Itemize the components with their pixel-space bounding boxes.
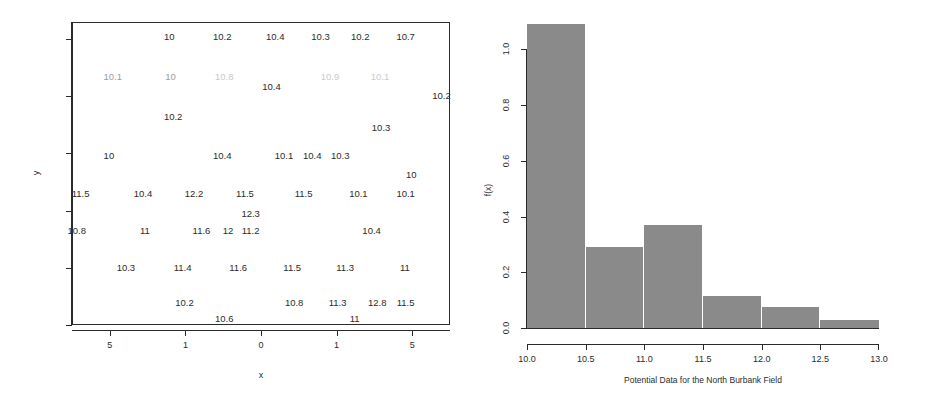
data-value-label: 10.9 <box>321 72 340 82</box>
scatter-x-axis: 51015 <box>72 330 450 338</box>
y-axis-tick <box>521 105 527 106</box>
data-value-label: 10.1 <box>396 189 415 199</box>
data-value-label: 10.4 <box>362 226 381 236</box>
scatter-plot-area: 1010.210.410.310.210.710.11010.810.410.9… <box>72 22 450 325</box>
x-axis-tick <box>586 344 587 350</box>
x-axis-tick-label: 11.0 <box>636 354 653 364</box>
data-value-label: 10 <box>406 170 417 180</box>
x-axis-tick <box>261 330 262 336</box>
data-value-label: 10.2 <box>213 32 232 42</box>
x-axis-tick <box>185 330 186 336</box>
histogram-panel: 10.010.511.011.512.012.513.0 Potential D… <box>470 0 932 405</box>
data-value-label: 10.8 <box>215 72 234 82</box>
data-value-label: 10 <box>164 32 175 42</box>
data-value-label: 10.2 <box>351 32 370 42</box>
data-value-label: 12 <box>223 226 234 236</box>
data-value-label: 10 <box>165 72 176 82</box>
y-axis-tick <box>521 328 527 329</box>
x-axis-tick <box>644 344 645 350</box>
histogram-plot-area <box>527 16 879 328</box>
data-value-label: 10.4 <box>213 152 232 162</box>
x-axis-tick-label: 10.0 <box>518 354 536 364</box>
histogram-x-axis-label: Potential Data for the North Burbank Fie… <box>624 375 782 385</box>
x-axis-tick-label: 12.0 <box>753 354 771 364</box>
x-axis-tick <box>110 330 111 336</box>
data-value-label: 10.3 <box>311 32 330 42</box>
x-axis-tick-label: 10.5 <box>577 354 595 364</box>
x-axis-tick <box>527 344 528 350</box>
data-value-label: 10.3 <box>372 123 391 133</box>
x-axis-tick-label: 12.5 <box>812 354 830 364</box>
y-axis-tick <box>66 268 72 269</box>
y-axis-tick <box>66 39 72 40</box>
data-value-label: 11.3 <box>329 299 347 309</box>
data-value-label: 10.3 <box>117 264 136 274</box>
scatter-panel: 1010.210.410.310.210.710.11010.810.410.9… <box>0 0 470 405</box>
data-value-label: 11.5 <box>236 189 254 199</box>
figure-canvas: 1010.210.410.310.210.710.11010.810.410.9… <box>0 0 932 405</box>
data-value-label: 10 <box>104 152 115 162</box>
histogram-bar <box>527 24 586 328</box>
data-value-label: 10.6 <box>215 315 234 325</box>
data-value-label: 11.4 <box>174 264 192 274</box>
x-axis-tick-label: 13.0 <box>870 354 888 364</box>
y-axis-tick-label: 0.6 <box>501 155 511 168</box>
data-value-label: 10.4 <box>303 152 322 162</box>
x-axis-tick-label: 1 <box>183 340 188 350</box>
x-axis-tick <box>337 330 338 336</box>
data-value-label: 10.3 <box>331 152 350 162</box>
y-axis-tick <box>521 161 527 162</box>
data-value-label: 12.8 <box>368 299 387 309</box>
histogram-y-axis-label: f(x) <box>483 184 493 196</box>
scatter-y-axis-label: y <box>31 171 41 176</box>
x-axis-tick <box>762 344 763 350</box>
data-value-label: 10.4 <box>262 82 281 92</box>
histogram-x-axis: 10.010.511.011.512.012.513.0 <box>527 344 879 352</box>
data-value-label: 11.5 <box>295 189 313 199</box>
x-axis-tick-label: 11.5 <box>695 354 712 364</box>
x-axis-tick <box>820 344 821 350</box>
data-value-label: 10.4 <box>266 32 285 42</box>
data-value-label: 11.3 <box>336 264 354 274</box>
data-value-label: 10.2 <box>164 112 183 122</box>
histogram-bar <box>762 307 821 328</box>
y-axis-spine <box>526 49 527 328</box>
scatter-x-axis-label: x <box>259 370 264 380</box>
histogram-bar <box>820 320 879 328</box>
histogram-bar <box>703 296 762 328</box>
y-axis-tick <box>66 153 72 154</box>
data-value-label: 11 <box>350 315 360 325</box>
data-value-label: 10.1 <box>371 72 390 82</box>
x-axis-tick <box>703 344 704 350</box>
y-axis-tick <box>66 96 72 97</box>
y-axis-tick <box>521 217 527 218</box>
data-value-label: 10.4 <box>134 189 153 199</box>
data-value-label: 10.8 <box>285 299 304 309</box>
data-value-label: 11.2 <box>242 226 260 236</box>
y-axis-tick-label: 0.0 <box>501 322 511 335</box>
data-value-label: 11.5 <box>283 264 301 274</box>
histogram-bar <box>586 247 645 328</box>
histogram-bar <box>644 225 703 328</box>
histogram-y-axis <box>519 16 527 328</box>
data-value-label: 10.2 <box>175 299 194 309</box>
x-axis-tick <box>412 330 413 336</box>
x-axis-tick <box>878 344 879 350</box>
data-value-label: 11.6 <box>193 226 211 236</box>
x-axis-tick-label: 0 <box>258 340 263 350</box>
data-value-label: 11.5 <box>397 299 415 309</box>
y-axis-tick <box>66 325 72 326</box>
data-value-label: 10.1 <box>275 152 294 162</box>
y-axis-tick-label: 0.4 <box>501 210 511 223</box>
data-value-label: 10.1 <box>103 72 122 82</box>
y-axis-tick-label: 0.8 <box>501 99 511 112</box>
data-value-label: 12.3 <box>241 210 260 220</box>
data-value-label: 11 <box>400 264 410 274</box>
data-value-label: 12.2 <box>185 189 204 199</box>
data-value-label: 11.6 <box>229 264 247 274</box>
data-value-label: 11.5 <box>72 189 90 199</box>
x-axis-tick-label: 5 <box>410 340 415 350</box>
data-value-label: 10.1 <box>349 189 368 199</box>
x-axis-tick-label: 1 <box>334 340 339 350</box>
y-axis-tick <box>521 49 527 50</box>
